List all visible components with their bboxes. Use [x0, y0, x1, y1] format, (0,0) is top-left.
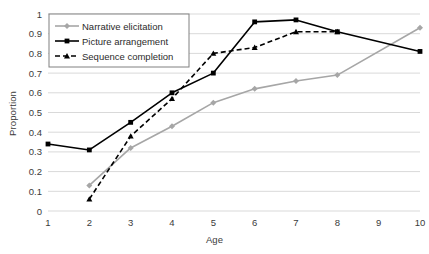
x-tick-label: 3: [128, 217, 133, 228]
y-tick-label: 0: [37, 206, 42, 217]
y-tick-label: 0.7: [29, 68, 42, 79]
legend-label: Narrative elicitation: [82, 21, 163, 32]
data-point: [252, 86, 258, 92]
y-tick-label: 0.6: [29, 87, 42, 98]
y-tick-label: 0.8: [29, 48, 42, 59]
y-tick-label: 1: [37, 9, 42, 20]
x-tick-label: 5: [211, 217, 216, 228]
data-point: [65, 39, 70, 44]
x-tick-label: 6: [252, 217, 257, 228]
x-tick-label: 2: [87, 217, 92, 228]
data-point: [211, 71, 216, 76]
y-tick-labels: 00.10.20.30.40.50.60.70.80.91: [29, 9, 42, 217]
data-point: [418, 49, 423, 54]
chart-legend: Narrative elicitationPicture arrangement…: [49, 14, 189, 67]
plot-area: 00.10.20.30.40.50.60.70.80.91 1234567891…: [0, 0, 429, 254]
x-tick-label: 8: [335, 217, 340, 228]
x-tick-label: 4: [169, 217, 174, 228]
x-tick-label: 9: [376, 217, 381, 228]
y-tick-label: 0.2: [29, 166, 42, 177]
x-axis-title: Age: [0, 234, 429, 245]
x-tick-label: 7: [293, 217, 298, 228]
data-point: [46, 142, 51, 147]
y-axis-title: Proportion: [7, 79, 18, 149]
legend-label: Picture arrangement: [82, 36, 168, 47]
data-point: [293, 78, 299, 84]
data-point: [128, 120, 133, 125]
x-tick-labels: 12345678910: [45, 217, 425, 228]
y-tick-label: 0.5: [29, 107, 42, 118]
y-tick-label: 0.1: [29, 186, 42, 197]
x-tick-label: 10: [415, 217, 426, 228]
y-tick-label: 0.3: [29, 146, 42, 157]
x-tick-label: 1: [45, 217, 50, 228]
y-tick-label: 0.9: [29, 28, 42, 39]
data-point: [87, 148, 92, 153]
data-point: [294, 18, 299, 23]
y-tick-label: 0.4: [29, 127, 42, 138]
data-point: [169, 96, 175, 101]
data-point: [170, 90, 175, 95]
legend-label: Sequence completion: [82, 51, 173, 62]
line-chart: 00.10.20.30.40.50.60.70.80.91 1234567891…: [0, 0, 429, 254]
data-point: [252, 19, 257, 24]
data-point: [128, 133, 134, 138]
